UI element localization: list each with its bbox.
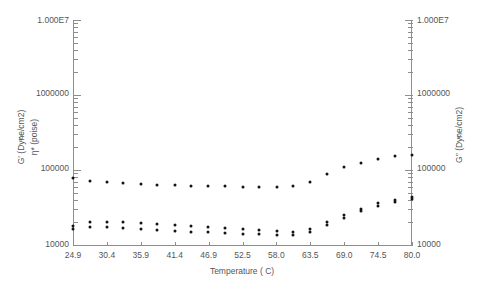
data-point-eta xyxy=(258,186,261,189)
data-point-eta xyxy=(105,181,108,184)
data-point-g xyxy=(122,226,125,229)
data-point-g xyxy=(139,227,142,230)
data-point-g xyxy=(88,225,91,228)
x-tick xyxy=(276,242,277,246)
data-point-g xyxy=(190,230,193,233)
x-tick xyxy=(73,242,74,246)
y-left-tick xyxy=(73,147,78,148)
y-axis-left-title-secondary: η* (poise) xyxy=(27,72,41,202)
y-right-tick xyxy=(408,37,413,38)
y-right-tick xyxy=(408,112,413,113)
data-point-g xyxy=(139,222,142,225)
x-tick-label: 74.5 xyxy=(370,250,387,260)
x-tick-label: 52.5 xyxy=(234,250,251,260)
y-right-tick xyxy=(408,27,413,28)
data-point-eta xyxy=(173,184,176,187)
data-point-eta xyxy=(72,177,75,180)
y-left-tick-label-3: 100000 xyxy=(41,164,69,173)
data-point-g xyxy=(105,221,108,224)
data-point-eta xyxy=(326,173,329,176)
y-right-tick xyxy=(405,20,413,21)
data-point-g xyxy=(258,228,261,231)
x-tick-label: 69.0 xyxy=(336,250,353,260)
data-point-g xyxy=(122,220,125,223)
y-left-tick xyxy=(73,125,78,126)
y-axis-left-title-primary-text: G' (Dyne/cm^2) xyxy=(16,110,26,165)
y-right-tick xyxy=(408,187,413,188)
x-tick-label: 46.9 xyxy=(200,250,217,260)
data-point-g xyxy=(156,223,159,226)
data-point-eta xyxy=(207,184,210,187)
y-right-tick xyxy=(408,209,413,210)
y-left-tick-label-4: 10000 xyxy=(45,240,69,249)
data-point-g xyxy=(292,234,295,237)
y-right-tick xyxy=(408,98,413,99)
y-left-tick xyxy=(73,134,78,135)
x-tick xyxy=(310,242,311,246)
x-tick xyxy=(175,242,176,246)
y-right-tick xyxy=(408,134,413,135)
y-left-tick xyxy=(73,32,78,33)
y-right-tick xyxy=(408,193,413,194)
x-tick xyxy=(107,242,108,246)
y-right-tick xyxy=(405,95,413,96)
y-axis-right-title: G'' (Dyne/cm^2) xyxy=(452,70,466,200)
data-point-g xyxy=(326,223,329,226)
data-point-g xyxy=(241,232,244,235)
x-tick-label: 80.0 xyxy=(404,250,421,260)
x-axis-title: Temperature ( C) xyxy=(0,266,484,276)
data-point-g xyxy=(156,228,159,231)
data-point-g xyxy=(309,230,312,233)
y-right-tick xyxy=(408,147,413,148)
y-right-tick xyxy=(405,170,413,171)
y-axis-right-title-text: G'' (Dyne/cm^2) xyxy=(454,107,464,163)
data-point-eta xyxy=(223,185,226,188)
y-right-tick xyxy=(408,59,413,60)
data-point-eta xyxy=(292,184,295,187)
y-left-tick xyxy=(73,95,81,96)
y-left-tick xyxy=(73,43,78,44)
y-right-tick xyxy=(408,222,413,223)
data-point-g xyxy=(105,225,108,228)
x-tick-label: 24.9 xyxy=(65,250,82,260)
data-point-eta xyxy=(343,166,346,169)
y-right-tick xyxy=(408,50,413,51)
y-right-tick xyxy=(408,125,413,126)
data-point-g xyxy=(343,216,346,219)
y-right-tick xyxy=(408,177,413,178)
y-left-tick xyxy=(73,187,78,188)
y-left-tick xyxy=(73,245,81,246)
data-point-g xyxy=(207,231,210,234)
data-point-g xyxy=(207,225,210,228)
x-tick-label: 63.5 xyxy=(302,250,319,260)
y-left-tick xyxy=(73,200,78,201)
y-right-tick xyxy=(408,102,413,103)
data-point-g xyxy=(223,226,226,229)
data-point-g xyxy=(241,227,244,230)
x-tick-label: 30.4 xyxy=(99,250,116,260)
data-point-eta xyxy=(359,161,362,164)
y-axis-left-title-secondary-text: η* (poise) xyxy=(29,119,39,155)
y-left-tick xyxy=(73,107,78,108)
y-right-tick-label-4: 10000 xyxy=(417,240,441,249)
y-left-tick xyxy=(73,72,78,73)
x-tick xyxy=(412,242,413,246)
x-tick-label: 35.9 xyxy=(133,250,150,260)
y-left-tick xyxy=(73,27,78,28)
data-point-g xyxy=(275,229,278,232)
y-right-tick-label-3: 100000 xyxy=(417,164,445,173)
data-point-g xyxy=(223,231,226,234)
data-point-eta xyxy=(309,180,312,183)
y-right-tick xyxy=(408,43,413,44)
chart-figure: 1.000E7 1000000 100000 10000 1.000E7 100… xyxy=(0,0,484,291)
y-right-tick-label-1: 1.000E7 xyxy=(417,16,449,25)
data-point-g xyxy=(377,205,380,208)
data-point-eta xyxy=(275,186,278,189)
x-tick-label: 58.0 xyxy=(268,250,285,260)
x-tick-label: 41.4 xyxy=(166,250,183,260)
x-tick xyxy=(141,242,142,246)
data-point-eta xyxy=(411,153,414,156)
y-left-tick xyxy=(73,118,78,119)
data-point-g xyxy=(173,229,176,232)
data-point-g xyxy=(72,227,75,230)
